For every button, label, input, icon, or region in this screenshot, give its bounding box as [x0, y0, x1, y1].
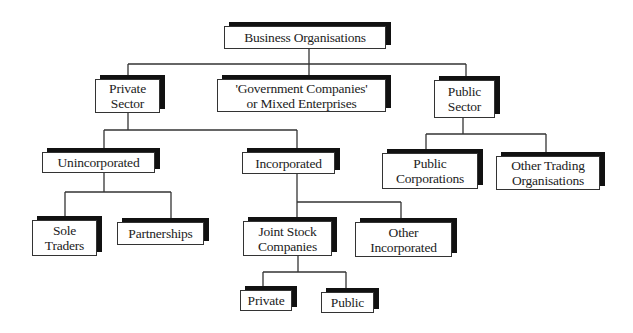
node-business-organisations: Business Organisations	[224, 26, 386, 49]
node-label: Joint Stock Companies	[258, 224, 317, 254]
node-private-sector: Private Sector	[95, 79, 160, 113]
node-incorporated: Incorporated	[242, 152, 335, 174]
node-label: Incorporated	[255, 156, 322, 171]
node-label: Public	[331, 295, 364, 310]
node-government-companies: 'Government Companies' or Mixed Enterpri…	[217, 79, 386, 112]
node-label: Other Incorporated	[370, 225, 437, 255]
node-other-trading-organisations: Other Trading Organisations	[496, 156, 600, 190]
node-jsc-private: Private	[240, 290, 292, 311]
node-sole-traders: Sole Traders	[32, 220, 97, 256]
node-label: Sole Traders	[45, 223, 84, 253]
node-label: Private	[248, 293, 285, 308]
node-label: Partnerships	[128, 226, 192, 241]
node-label: Other Trading Organisations	[511, 158, 585, 188]
node-partnerships: Partnerships	[117, 222, 204, 245]
node-joint-stock-companies: Joint Stock Companies	[243, 221, 332, 256]
org-chart: Business Organisations Private Sector 'G…	[0, 0, 633, 333]
node-other-incorporated: Other Incorporated	[355, 222, 452, 257]
node-label: Private Sector	[109, 81, 146, 111]
node-public-sector: Public Sector	[434, 80, 495, 118]
node-label: Public Corporations	[396, 156, 464, 186]
node-label: Unincorporated	[58, 155, 140, 170]
node-label: Business Organisations	[244, 30, 366, 45]
node-public-corporations: Public Corporations	[382, 153, 478, 189]
node-label: 'Government Companies' or Mixed Enterpri…	[235, 81, 367, 111]
node-label: Public Sector	[448, 84, 481, 114]
node-jsc-public: Public	[321, 292, 374, 313]
node-unincorporated: Unincorporated	[42, 152, 155, 173]
